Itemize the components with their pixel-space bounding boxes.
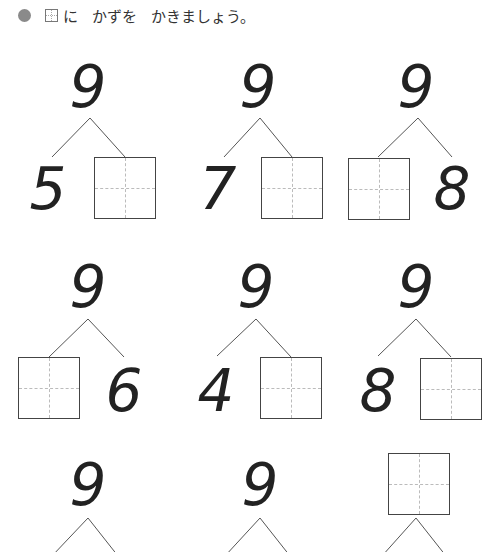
right-number: 8 [422,160,482,218]
total-number: 9 [58,258,118,316]
answer-box[interactable] [348,158,410,220]
total-number: 9 [386,258,446,316]
total-number: 9 [228,58,288,116]
total-number: 9 [58,456,118,514]
answer-box[interactable] [261,157,323,219]
left-number: 8 [348,362,408,420]
left-number: 7 [188,160,248,218]
answer-box[interactable] [260,357,322,419]
right-number: 6 [94,362,154,420]
answer-box[interactable] [18,357,80,419]
total-number: 9 [58,58,118,116]
answer-box-total[interactable] [388,453,450,515]
total-number: 9 [386,58,446,116]
total-number: 9 [226,258,286,316]
left-number: 4 [186,362,246,420]
answer-box[interactable] [94,157,156,219]
total-number: 9 [230,456,290,514]
answer-box[interactable] [420,358,482,420]
left-number: 5 [18,160,78,218]
